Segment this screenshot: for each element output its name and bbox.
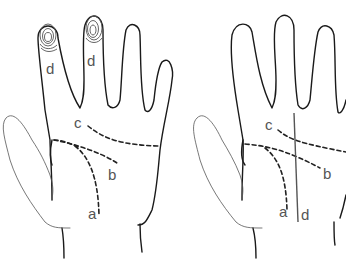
right-crease-a	[265, 148, 287, 210]
right-wrist-right	[334, 222, 335, 245]
right-label-a: a	[279, 203, 288, 220]
left-label-a: a	[88, 205, 97, 222]
left-label-d-index: d	[46, 60, 54, 77]
right-wrist-left	[253, 228, 256, 258]
right-hand: c b a d	[194, 15, 346, 258]
right-crease-b	[245, 144, 320, 168]
right-thumb-outline	[194, 116, 262, 228]
right-label-c: c	[265, 116, 273, 133]
right-crease-c	[278, 130, 346, 152]
left-thumb-crease	[51, 140, 53, 165]
left-wrist-left	[62, 228, 64, 258]
left-crease-b	[54, 140, 117, 163]
left-label-b: b	[108, 166, 116, 183]
right-line-d	[294, 113, 298, 222]
left-wrist-right	[140, 224, 142, 252]
left-middle-fingerprint	[86, 16, 102, 43]
left-label-d-middle: d	[87, 52, 95, 69]
palm-diagram: d d c b a c b a d	[0, 0, 346, 270]
right-label-b: b	[323, 165, 331, 182]
left-thumb-outline	[3, 116, 70, 228]
left-hand: d d c b a	[3, 16, 172, 258]
left-label-c: c	[74, 114, 82, 131]
left-crease-c	[88, 126, 158, 146]
right-hand-right-edge	[340, 195, 346, 218]
right-label-d: d	[301, 206, 309, 223]
left-hand-outline	[38, 16, 173, 225]
